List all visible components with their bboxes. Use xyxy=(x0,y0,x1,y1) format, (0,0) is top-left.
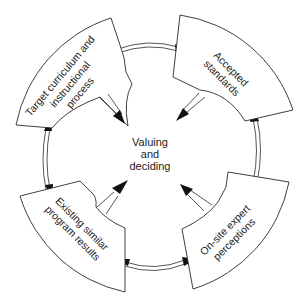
svg-text:and: and xyxy=(141,148,159,160)
pointer-bottom-right xyxy=(180,184,212,211)
pointer-top-right xyxy=(176,93,205,121)
svg-text:Valuing: Valuing xyxy=(132,136,168,148)
arrowhead-icon xyxy=(112,180,128,194)
arrowhead-icon xyxy=(180,184,193,196)
pointer-bottom-left xyxy=(97,180,128,214)
ring-connector-left xyxy=(43,116,53,199)
center-label: Valuing and deciding xyxy=(130,136,171,172)
svg-text:deciding: deciding xyxy=(130,160,171,172)
arrowhead-icon xyxy=(176,108,189,121)
valuing-cycle-diagram: Target curriculum and instructional proc… xyxy=(0,0,300,307)
ring-connector-bottom xyxy=(115,257,197,271)
